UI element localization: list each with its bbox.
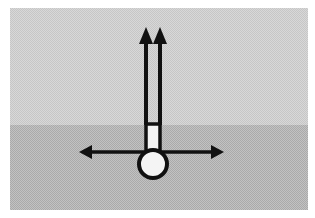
circle-body [139,150,167,178]
force-diagram [0,0,315,218]
column-rectangle [146,124,160,152]
